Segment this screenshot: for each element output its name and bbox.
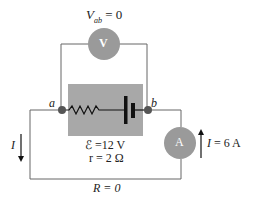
ammeter-current: I = 6 A — [207, 136, 241, 151]
arrow-down-icon — [18, 156, 24, 162]
node-a — [58, 106, 66, 114]
vab-subscript: ab — [94, 16, 102, 25]
ammeter-wire — [147, 110, 181, 127]
battery-long-plate — [124, 96, 128, 124]
node-b-label: b — [151, 96, 157, 111]
circuit-diagram — [0, 0, 253, 209]
internal-resistance-label: r = 2 Ω — [89, 151, 124, 166]
voltmeter-symbol: V — [99, 36, 108, 51]
left-current-label: I — [11, 138, 15, 153]
vab-value: = 0 — [105, 7, 122, 22]
vab-symbol: V — [86, 7, 94, 22]
current-value: = 6 A — [214, 136, 241, 150]
node-a-label: a — [49, 96, 55, 111]
voltmeter-reading: Vab = 0 — [86, 7, 122, 25]
ammeter-symbol: A — [175, 135, 184, 150]
current-symbol: I — [207, 136, 211, 150]
arrow-up-icon — [198, 129, 204, 135]
external-resistance-label: R = 0 — [93, 181, 120, 196]
battery-short-plate — [131, 103, 135, 118]
